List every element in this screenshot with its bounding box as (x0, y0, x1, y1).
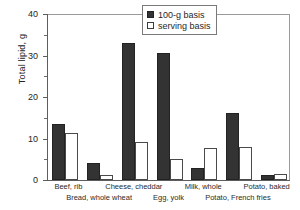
bar-serving-basis[interactable] (274, 174, 287, 180)
chart-figure: Total lipid, g 010203040 100-g basis ser… (0, 0, 300, 210)
y-tick-minor (44, 35, 47, 36)
bar-group (122, 14, 148, 180)
x-axis-category-label: Cheese, cheddar (105, 182, 162, 191)
y-tick-minor (44, 159, 47, 160)
bar-100g-basis[interactable] (87, 163, 100, 180)
legend-swatch-dark-icon (147, 11, 154, 18)
bar-serving-basis[interactable] (65, 133, 78, 180)
y-tick-label: 20 (28, 93, 38, 102)
bar-100g-basis[interactable] (157, 53, 170, 180)
legend-swatch-light-icon (147, 22, 154, 29)
bar-serving-basis[interactable] (170, 159, 183, 180)
bar-serving-basis[interactable] (239, 147, 252, 180)
bar-100g-basis[interactable] (226, 113, 239, 180)
legend-item-serving: serving basis (147, 20, 211, 31)
x-axis-labels: Beef, ribBread, whole wheatCheese, chedd… (47, 182, 290, 210)
y-axis-title: Total lipid, g (15, 0, 29, 119)
bar-group (261, 14, 287, 180)
bar-100g-basis[interactable] (122, 43, 135, 180)
legend-label-100g: 100-g basis (158, 10, 205, 20)
x-axis-category-label: Potato, French fries (205, 193, 270, 202)
y-tick-label: 30 (28, 51, 38, 60)
x-axis-category-label: Beef, rib (54, 182, 82, 191)
bar-100g-basis[interactable] (191, 168, 204, 180)
x-axis-category-label: Potato, baked (243, 182, 289, 191)
bar-group (52, 14, 78, 180)
x-axis-spine (47, 180, 290, 181)
bar-group (157, 14, 183, 180)
bar-series-container (48, 14, 289, 180)
plot-area: 010203040 (47, 14, 290, 181)
legend-label-serving: serving basis (158, 21, 211, 31)
y-tick-minor (44, 76, 47, 77)
bar-serving-basis[interactable] (135, 142, 148, 180)
bar-group (191, 14, 217, 180)
y-tick-minor (44, 118, 47, 119)
x-axis-category-label: Bread, whole wheat (66, 193, 132, 202)
bar-serving-basis[interactable] (100, 175, 113, 180)
x-axis-category-label: Egg, yolk (153, 193, 184, 202)
legend-item-100g: 100-g basis (147, 9, 211, 20)
y-tick-major: 0 (43, 180, 48, 181)
chart-legend: 100-g basis serving basis (142, 5, 217, 35)
bar-group (226, 14, 252, 180)
y-tick-label: 40 (28, 10, 38, 19)
bar-serving-basis[interactable] (204, 148, 217, 180)
y-tick-label: 0 (33, 176, 38, 185)
axis-right-spine (289, 14, 290, 181)
y-tick-label: 10 (28, 134, 38, 143)
x-axis-category-label: Milk, whole (185, 182, 222, 191)
bar-group (87, 14, 113, 180)
bar-100g-basis[interactable] (52, 124, 65, 180)
bar-100g-basis[interactable] (261, 175, 274, 180)
